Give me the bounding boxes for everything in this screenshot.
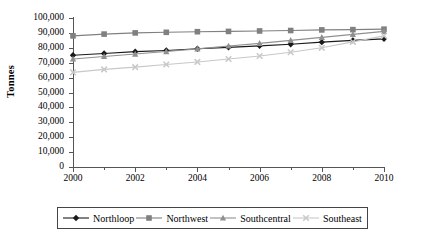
diamond-marker: [73, 215, 79, 221]
x-tick-mark: [384, 168, 385, 172]
x-tick-mark-minor: [166, 168, 167, 170]
legend-label: Northwest: [164, 213, 208, 224]
square-marker: [319, 27, 325, 33]
x-tick-label: 2004: [175, 173, 219, 183]
y-tick-label: 30,000: [8, 117, 64, 127]
square-marker: [195, 29, 201, 35]
plot-area: [73, 18, 384, 167]
y-tick-label: 0: [8, 162, 64, 172]
x-tick-label: 2000: [51, 173, 95, 183]
y-tick-label: 80,000: [8, 43, 64, 53]
square-marker: [288, 28, 294, 34]
square-marker: [70, 33, 76, 39]
square-marker: [226, 29, 232, 35]
square-marker: [136, 213, 162, 223]
y-tick-label: 20,000: [8, 132, 64, 142]
y-tick-label: 10,000: [8, 147, 64, 157]
x-marker: [293, 213, 319, 223]
x-tick-mark-minor: [353, 168, 354, 170]
y-tick-label: 60,000: [8, 73, 64, 83]
y-tick-label: 100,000: [8, 13, 64, 23]
square-marker: [164, 30, 170, 36]
x-tick-label: 2006: [238, 173, 282, 183]
line-chart: Tonnes 010,00020,00030,00040,00050,00060…: [0, 0, 423, 240]
diamond-marker: [63, 213, 89, 223]
square-marker: [147, 215, 153, 221]
x-tick-mark: [135, 168, 136, 172]
x-tick-mark-minor: [229, 168, 230, 170]
triangle-marker: [210, 213, 236, 223]
y-tick-label: 70,000: [8, 58, 64, 68]
square-marker: [101, 31, 107, 37]
square-marker: [257, 28, 263, 34]
legend-item-southcentral[interactable]: Southcentral: [210, 213, 291, 224]
chart-legend: NorthloopNorthwestSouthcentralSoutheast: [57, 207, 368, 229]
x-tick-mark-minor: [104, 168, 105, 170]
legend-label: Northloop: [91, 213, 134, 224]
legend-label: Southeast: [321, 213, 362, 224]
x-tick-mark-minor: [291, 168, 292, 170]
x-tick-mark: [322, 168, 323, 172]
legend-item-southeast[interactable]: Southeast: [293, 213, 362, 224]
series-southeast: [70, 33, 387, 75]
x-tick-mark: [197, 168, 198, 172]
x-tick-label: 2010: [362, 173, 406, 183]
series-layer: [73, 18, 384, 167]
x-tick-label: 2002: [113, 173, 157, 183]
series-northwest: [70, 26, 387, 38]
x-tick-mark: [260, 168, 261, 172]
x-tick-mark: [73, 168, 74, 172]
legend-item-northwest[interactable]: Northwest: [136, 213, 208, 224]
square-marker: [132, 30, 138, 36]
legend-label: Southcentral: [238, 213, 291, 224]
legend-item-northloop[interactable]: Northloop: [63, 213, 134, 224]
x-tick-label: 2008: [300, 173, 344, 183]
y-tick-label: 40,000: [8, 102, 64, 112]
y-tick-label: 90,000: [8, 28, 64, 38]
y-tick-label: 50,000: [8, 88, 64, 98]
